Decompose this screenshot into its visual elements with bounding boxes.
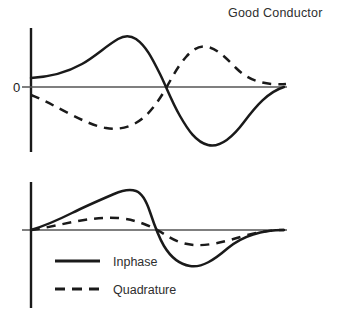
panel-good-conductor: 0 Good Conductor: [0, 0, 346, 160]
legend-item-inphase-label: Inphase: [113, 255, 157, 269]
panel-title-good-conductor: Good Conductor: [228, 6, 323, 20]
y-axis-zero-label-good: 0: [13, 80, 20, 95]
inphase-curve-poor: [31, 190, 284, 266]
quadrature-curve-poor: [31, 218, 284, 245]
figure-root: 0 Good Conductor 0 Poor Conductor Inphas…: [0, 0, 346, 315]
panel-good-conductor-plot: [0, 0, 346, 160]
legend-item-quadrature-label: Quadrature: [113, 283, 176, 297]
inphase-curve-good: [31, 36, 284, 145]
